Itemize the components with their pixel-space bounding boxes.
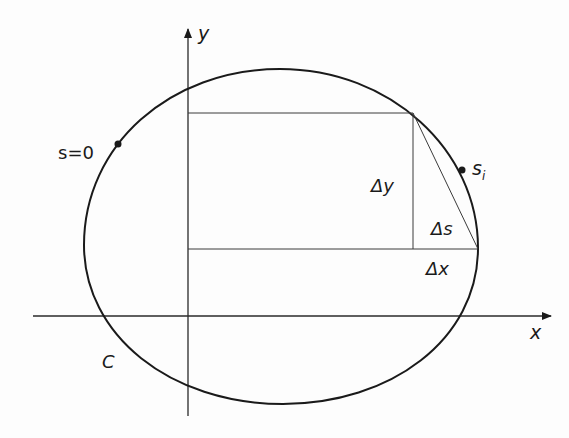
current-point-label-sub: i (482, 169, 486, 183)
y-axis-label: y (197, 22, 210, 44)
start-point-dot (115, 141, 122, 148)
delta-y-label: Δy (369, 175, 394, 196)
delta-x-label: Δx (424, 258, 449, 279)
curve-label: C (102, 351, 115, 372)
current-point-dot (459, 167, 466, 174)
current-point-label-base: s (472, 157, 482, 179)
x-axis-label: x (529, 321, 542, 343)
delta-s-label: Δs (429, 218, 453, 239)
current-point-label: si (472, 157, 486, 183)
diagram-canvas: y x C s=0 si Δy Δs Δx (0, 0, 569, 438)
arc-length-diagram: y x C s=0 si Δy Δs Δx (0, 0, 569, 438)
curve-c (84, 69, 478, 404)
start-point-label: s=0 (58, 142, 94, 163)
